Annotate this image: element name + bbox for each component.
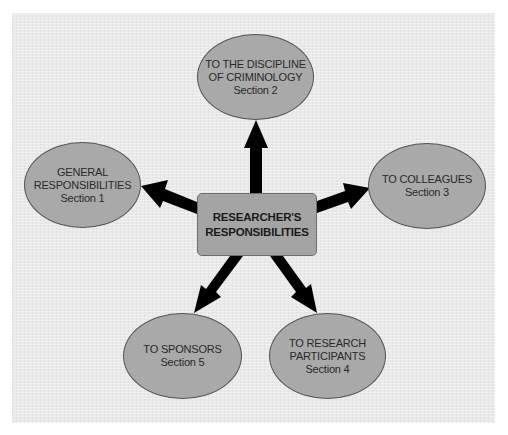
node-label: TO COLLEAGUES (382, 173, 472, 186)
arrow-down-right-icon (270, 256, 317, 313)
arrow-left-icon (141, 180, 197, 214)
node-label: PARTICIPANTS (290, 350, 366, 363)
node-section: Section 5 (160, 356, 204, 369)
arrow-up-icon (244, 120, 268, 194)
node-label: RESPONSIBILITIES (34, 179, 132, 192)
center-label-line2: RESPONSIBILITIES (205, 225, 309, 240)
node-section: Section 3 (405, 186, 449, 199)
center-label-line1: RESEARCHER'S (213, 210, 302, 225)
node-label: OF CRIMINOLOGY (209, 71, 303, 84)
node-section: Section 4 (305, 363, 349, 376)
node-label: TO SPONSORS (143, 343, 221, 356)
arrow-right-icon (317, 183, 370, 213)
node-discipline-of-criminology: TO THE DISCIPLINE OF CRIMINOLOGY Section… (197, 34, 314, 120)
node-research-participants: TO RESEARCH PARTICIPANTS Section 4 (269, 313, 386, 399)
center-node-researchers-responsibilities: RESEARCHER'S RESPONSIBILITIES (197, 193, 317, 256)
node-label: TO THE DISCIPLINE (205, 58, 306, 71)
node-colleagues: TO COLLEAGUES Section 3 (368, 143, 486, 229)
node-section: Section 2 (233, 84, 277, 97)
node-label: TO RESEARCH (289, 337, 366, 350)
node-sponsors: TO SPONSORS Section 5 (123, 313, 242, 399)
node-general-responsibilities: GENERAL RESPONSIBILITIES Section 1 (24, 142, 141, 228)
arrow-down-left-icon (194, 256, 243, 313)
node-section: Section 1 (60, 192, 104, 205)
node-label: GENERAL (57, 166, 108, 179)
